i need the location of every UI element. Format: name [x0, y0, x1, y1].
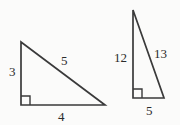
triangle-left-base-label: 4: [58, 110, 65, 123]
triangle-right-hypotenuse-label: 13: [154, 47, 167, 60]
right-angle-marker-right: [133, 89, 142, 98]
triangle-left-vertical-leg-label: 3: [9, 65, 16, 78]
triangle-right-base-label: 5: [146, 104, 153, 117]
triangle-right-vertical-leg-label: 12: [114, 51, 127, 64]
triangle-left-outline: [21, 42, 105, 105]
geometry-figure: 3 5 4 12 13 5: [0, 0, 180, 125]
triangle-left: [21, 42, 105, 105]
right-angle-marker-left: [21, 96, 30, 105]
triangle-left-hypotenuse-label: 5: [61, 54, 68, 67]
triangles-canvas: [0, 0, 180, 125]
